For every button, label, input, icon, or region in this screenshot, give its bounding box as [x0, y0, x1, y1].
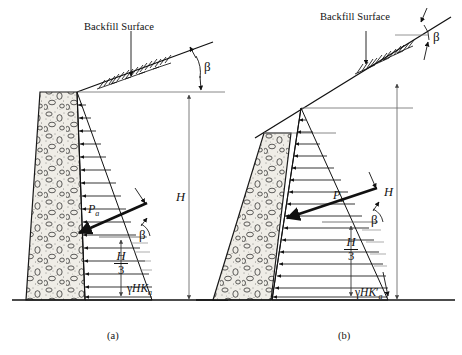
- resultant-subscript-a: a: [95, 209, 99, 218]
- resultant-leader-arrow-a: [135, 188, 145, 203]
- beta-arrow-upper-b: [421, 8, 427, 22]
- beta-arrow-lower-b: [424, 42, 428, 60]
- resultant-subscript-b: a: [340, 195, 344, 204]
- resultant-force-label-b: Pa: [333, 189, 344, 204]
- third-height-denominator-a: 3: [113, 264, 129, 277]
- height-label-b: H: [384, 186, 393, 199]
- coefficient-symbol-a: K: [140, 282, 148, 294]
- resultant-beta-label-b: β: [371, 213, 378, 226]
- pressure-value-label-a: γHKa: [127, 283, 152, 297]
- beta-arrow-lower-a: [200, 76, 201, 90]
- coefficient-subscript-a: a: [148, 288, 152, 297]
- retaining-wall-body-a: [26, 92, 85, 300]
- third-height-label-a: H 3: [113, 250, 129, 277]
- height-label-a: H: [176, 191, 185, 204]
- third-height-numerator-b: H: [343, 236, 359, 249]
- panel-b-graphics: [196, 8, 455, 300]
- pressure-hatch-a: [131, 243, 152, 270]
- pressure-vectors-b: [273, 120, 388, 297]
- retaining-wall-body-b: [213, 133, 291, 300]
- resultant-beta-arrow-b: [373, 202, 379, 211]
- pressure-hatch-b: [362, 230, 387, 266]
- panel-caption-b: (b): [338, 331, 350, 342]
- figure-canvas: Backfill Surface β H Pa β H 3 γHKa (a) B…: [0, 0, 462, 355]
- third-height-denominator-b: 3: [343, 250, 359, 263]
- beta-label-a: β: [204, 60, 211, 73]
- pressure-value-label-b: γHK′a: [355, 287, 383, 301]
- resultant-force-label-a: Pa: [88, 203, 99, 218]
- backfill-surface-label-a: Backfill Surface: [84, 22, 154, 33]
- coefficient-symbol-b: K: [368, 286, 376, 298]
- resultant-force-arrow-b[interactable]: [287, 188, 377, 218]
- third-height-label-b: H 3: [343, 236, 359, 263]
- ground-hatch-symbol-a: [97, 55, 171, 89]
- beta-angle-arc-a: [196, 56, 200, 78]
- beta-label-b: β: [433, 30, 440, 43]
- resultant-leader-arrow-b: [369, 172, 376, 188]
- coefficient-subscript-b: a: [379, 292, 383, 301]
- resultant-beta-label-a: β: [139, 228, 146, 241]
- backfill-surface-label-b: Backfill Surface: [320, 12, 390, 23]
- backfill-slope-line-a: [77, 42, 213, 92]
- resultant-beta-arrow-a: [141, 218, 147, 226]
- third-height-numerator-a: H: [113, 250, 129, 263]
- retaining-wall-diagram: [0, 0, 462, 355]
- panel-caption-a: (a): [107, 331, 119, 342]
